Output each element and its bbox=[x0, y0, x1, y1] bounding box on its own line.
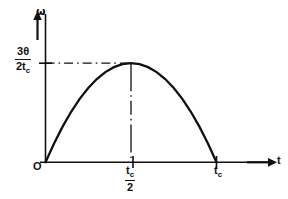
x-half-denominator: 2 bbox=[126, 182, 134, 194]
x-axis bbox=[40, 158, 277, 167]
origin-label: O bbox=[33, 161, 42, 172]
x-axis-label: t bbox=[277, 155, 281, 166]
x-axis-arrow-icon bbox=[268, 158, 277, 167]
x-half-value-label: tc 2 bbox=[125, 165, 135, 194]
axis-ticks bbox=[39, 63, 217, 168]
omega-vs-time-chart bbox=[0, 0, 288, 199]
x-half-numerator: tc bbox=[125, 165, 135, 179]
x-end-subscript: c bbox=[218, 170, 222, 179]
y-axis-label: ω bbox=[36, 6, 46, 17]
x-half-numerator-subscript: c bbox=[130, 170, 134, 179]
y-max-numerator: 3θ bbox=[16, 46, 30, 58]
y-max-denominator-subscript: c bbox=[26, 66, 30, 75]
x-end-value-label: tc bbox=[214, 165, 222, 179]
y-axis bbox=[33, 11, 45, 163]
y-max-denominator: 2tc bbox=[15, 61, 31, 75]
y-max-value-label: 3θ 2tc bbox=[15, 46, 31, 75]
